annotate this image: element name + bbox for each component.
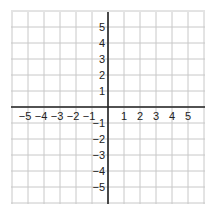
y-tick-label: −4 (92, 165, 105, 177)
x-tick-label: 3 (153, 110, 159, 122)
y-tick-label: 1 (99, 85, 105, 97)
y-tick-label: −3 (92, 149, 105, 161)
y-tick-label: 5 (99, 21, 105, 33)
x-tick-label: −2 (67, 110, 80, 122)
x-tick-label: −3 (51, 110, 64, 122)
x-tick-label: 2 (137, 110, 143, 122)
y-tick-label: −5 (92, 181, 105, 193)
y-tick-label: 3 (99, 53, 105, 65)
x-tick-label: −5 (19, 110, 32, 122)
x-tick-label: 1 (121, 110, 127, 122)
x-tick-label: 4 (169, 110, 175, 122)
y-tick-label: 4 (99, 37, 105, 49)
y-tick-label: −1 (92, 117, 105, 129)
x-tick-label: 5 (185, 110, 191, 122)
coordinate-plane: −5−4−3−2−112345 54321−1−2−3−4−5 (0, 0, 213, 209)
y-tick-label: 2 (99, 69, 105, 81)
x-tick-label: −4 (35, 110, 48, 122)
y-tick-label: −2 (92, 133, 105, 145)
